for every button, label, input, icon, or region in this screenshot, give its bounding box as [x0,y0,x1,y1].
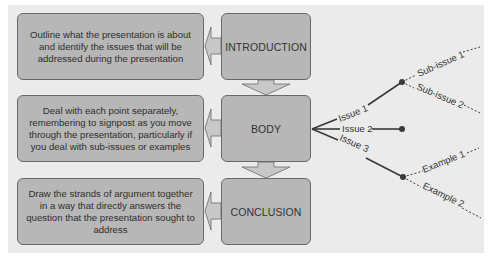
issue-1-line-b [368,82,402,105]
diagram-connectors: Issue 1 Issue 2 Issue 3 Sub-issue 1 Sub-… [0,0,494,261]
sub-issue-2-line-b [464,105,480,113]
issue-1-line-a [312,119,337,129]
issue-3-line-b [366,158,403,177]
issue-2-label: Issue 2 [342,123,373,134]
example-1-line-b [467,148,479,153]
sub-issue-1-line-b [463,47,480,52]
down-arrow-intro-to-body [242,80,290,95]
left-arrow-introduction [205,27,221,65]
sub-issue-1-label: Sub-issue 1 [415,48,465,78]
issue-2-node [399,126,405,132]
example-2-line-a [403,177,421,187]
issue-3-line-a [312,129,338,140]
left-arrow-conclusion [205,192,221,230]
sub-issue-2-label: Sub-issue 2 [415,81,465,111]
example-2-line-b [462,208,481,218]
example-1-line-a [403,171,423,177]
example-2-label: Example 2 [421,180,466,210]
down-arrow-body-to-conclusion [242,162,290,178]
issue-3-label: Issue 3 [338,132,370,155]
example-1-label: Example 1 [421,148,467,175]
left-arrow-body [205,109,221,147]
issue-1-label: Issue 1 [337,102,370,124]
